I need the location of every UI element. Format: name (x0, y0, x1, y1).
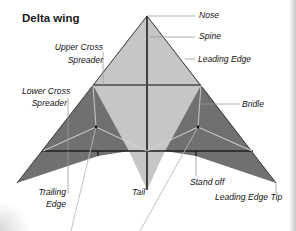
bridle-knot-left (95, 126, 98, 129)
label-lower-cross-spreader-line1: Lower Cross (22, 86, 70, 97)
label-leading-edge: Leading Edge (198, 54, 251, 65)
bridle-knot-right (197, 126, 200, 129)
diagram-title: Delta wing (22, 12, 80, 24)
label-tail: Tail (132, 187, 145, 198)
label-bridle: Bridle (242, 99, 264, 110)
label-trailing-edge-line2: Edge (30, 199, 66, 210)
label-upper-cross-spreader-line2: Spreader (48, 55, 103, 66)
label-stand-off: Stand off (190, 177, 224, 188)
delta-wing-diagram: Delta wing Nose Spine Leading Edge Upper… (0, 0, 296, 231)
label-trailing-edge-line1: Trailing (30, 187, 66, 198)
label-upper-cross-spreader-line1: Upper Cross (48, 42, 103, 53)
page-curl-shadow (0, 201, 30, 231)
label-leading-edge-tip: Leading Edge Tip (215, 192, 282, 203)
label-lower-cross-spreader-line2: Spreader (10, 98, 67, 109)
page-edge-shadow (290, 0, 296, 231)
label-nose: Nose (199, 10, 219, 21)
label-spine: Spine (199, 31, 221, 42)
